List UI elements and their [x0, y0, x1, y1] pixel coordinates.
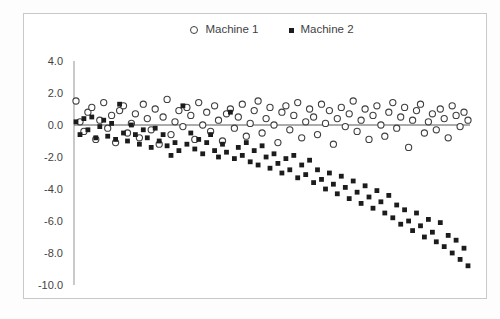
y-tick-label: 0.0 — [48, 119, 63, 131]
data-point-machine-2 — [422, 235, 427, 240]
data-point-machine-2 — [363, 183, 368, 188]
data-point-machine-2 — [252, 148, 257, 153]
data-point-machine-1 — [231, 125, 237, 131]
data-point-machine-1 — [410, 117, 416, 123]
data-point-machine-2 — [430, 230, 435, 235]
data-point-machine-2 — [82, 116, 87, 121]
data-point-machine-2 — [204, 140, 209, 145]
legend-item-machine-1[interactable]: Machine 1 — [190, 24, 258, 36]
data-point-machine-2 — [339, 174, 344, 179]
data-point-machine-2 — [315, 167, 320, 172]
data-point-machine-2 — [236, 145, 241, 150]
data-point-machine-2 — [434, 239, 439, 244]
data-point-machine-2 — [86, 127, 91, 132]
scatter-chart: 4.02.00.0-2.0-4.0-6.0-8.0-10.0 Machine 1… — [0, 0, 500, 319]
data-point-machine-1 — [437, 106, 443, 112]
data-point-machine-1 — [251, 108, 257, 114]
data-point-machine-2 — [311, 180, 316, 185]
data-point-machine-2 — [93, 135, 98, 140]
data-point-machine-2 — [299, 163, 304, 168]
data-point-machine-1 — [73, 98, 79, 104]
data-point-machine-1 — [144, 116, 150, 122]
data-point-machine-1 — [200, 122, 206, 128]
data-point-machine-2 — [74, 119, 79, 124]
data-point-machine-2 — [113, 137, 118, 142]
data-point-machine-1 — [271, 122, 277, 128]
data-point-machine-1 — [413, 108, 419, 114]
data-point-machine-2 — [145, 135, 150, 140]
data-point-machine-2 — [188, 131, 193, 136]
data-point-machine-2 — [244, 140, 249, 145]
data-point-machine-2 — [177, 148, 182, 153]
data-point-machine-2 — [458, 257, 463, 262]
data-point-machine-1 — [152, 106, 158, 112]
legend: Machine 1 Machine 2 — [74, 21, 470, 39]
data-point-machine-1 — [322, 120, 328, 126]
data-point-machine-2 — [375, 188, 380, 193]
data-point-machine-1 — [307, 106, 313, 112]
y-tick-label: 2.0 — [48, 87, 63, 99]
data-point-machine-2 — [216, 155, 221, 160]
data-point-machine-2 — [446, 233, 451, 238]
data-point-machine-2 — [438, 220, 443, 225]
data-point-machine-1 — [314, 132, 320, 138]
data-point-machine-2 — [343, 185, 348, 190]
data-point-machine-2 — [97, 124, 102, 129]
data-point-machine-1 — [89, 104, 95, 110]
data-point-machine-2 — [323, 187, 328, 192]
data-point-machine-2 — [351, 179, 356, 184]
data-point-machine-2 — [327, 171, 332, 176]
data-point-machine-1 — [386, 109, 392, 115]
data-point-machine-2 — [224, 150, 229, 155]
square-marker-icon — [289, 28, 294, 33]
plot-area: 4.02.00.0-2.0-4.0-6.0-8.0-10.0 — [0, 0, 500, 319]
data-point-machine-2 — [181, 103, 186, 108]
data-point-machine-1 — [457, 124, 463, 130]
data-point-machine-2 — [287, 167, 292, 172]
data-point-machine-2 — [248, 159, 253, 164]
data-point-machine-1 — [255, 98, 261, 104]
data-point-machine-1 — [176, 108, 182, 114]
data-point-machine-2 — [331, 182, 336, 187]
data-point-machine-2 — [185, 142, 190, 147]
legend-item-machine-2[interactable]: Machine 2 — [289, 24, 354, 36]
data-point-machine-1 — [291, 112, 297, 118]
data-point-machine-2 — [382, 211, 387, 216]
data-point-machine-1 — [160, 114, 166, 120]
y-tick-label: -4.0 — [44, 183, 63, 195]
data-point-machine-1 — [283, 103, 289, 109]
data-point-machine-2 — [129, 123, 134, 128]
y-tick-label: -8.0 — [44, 247, 63, 259]
data-point-machine-1 — [215, 117, 221, 123]
data-point-machine-1 — [402, 104, 408, 110]
data-point-machine-1 — [132, 111, 138, 117]
data-point-machine-2 — [355, 190, 360, 195]
data-point-machine-1 — [354, 128, 360, 134]
data-point-machine-1 — [295, 100, 301, 106]
data-point-machine-2 — [260, 143, 265, 148]
data-point-machine-2 — [466, 263, 471, 268]
data-point-machine-2 — [359, 201, 364, 206]
data-point-machine-2 — [386, 193, 391, 198]
circle-marker-icon — [190, 26, 198, 34]
data-point-machine-2 — [398, 222, 403, 227]
data-point-machine-2 — [105, 134, 110, 139]
data-point-machine-1 — [243, 133, 249, 139]
data-point-machine-2 — [208, 132, 213, 137]
data-point-machine-1 — [247, 120, 253, 126]
data-point-machine-2 — [228, 110, 233, 115]
data-point-machine-2 — [264, 155, 269, 160]
data-point-machine-1 — [109, 112, 115, 118]
data-point-machine-2 — [379, 199, 384, 204]
data-point-machine-2 — [89, 115, 94, 120]
data-point-machine-1 — [417, 101, 423, 107]
data-point-machine-2 — [121, 131, 126, 136]
data-point-machine-2 — [406, 219, 411, 224]
legend-label-machine-1: Machine 1 — [205, 24, 258, 36]
data-point-machine-2 — [256, 163, 261, 168]
data-point-machine-1 — [140, 101, 146, 107]
data-point-machine-2 — [371, 206, 376, 211]
data-point-machine-2 — [394, 203, 399, 208]
data-point-machine-2 — [240, 153, 245, 158]
data-point-machine-2 — [196, 137, 201, 142]
